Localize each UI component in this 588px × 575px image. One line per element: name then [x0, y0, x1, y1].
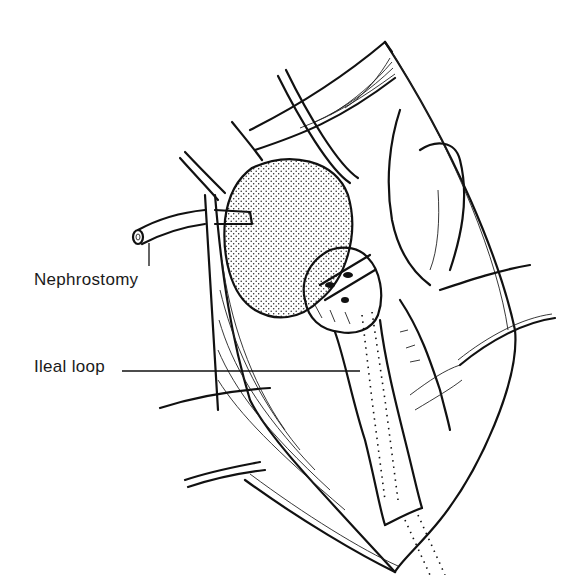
surgical-illustration: Nephrostomy Ileal loop — [0, 0, 588, 575]
ileal-loop — [335, 312, 445, 575]
ileal-loop-label: Ileal loop — [34, 357, 105, 377]
kidney — [224, 159, 352, 317]
nephrostomy-label: Nephrostomy — [34, 270, 138, 290]
bowel — [389, 110, 464, 430]
